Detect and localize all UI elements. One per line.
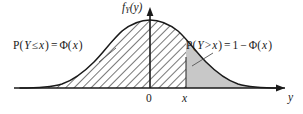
right-label-minus: − [239, 39, 248, 51]
left-label-phi-arg: x [73, 39, 78, 51]
right-label-phi-close: ) [267, 39, 273, 51]
left-label-variable: Y [24, 39, 30, 51]
right-region-label: P(Y>x)=1−Φ(x) [185, 40, 273, 52]
right-tail-region [186, 18, 282, 88]
left-region-label: P(Y≤x)=Φ(x) [12, 40, 84, 52]
tick-label-threshold: x [182, 93, 187, 105]
right-label-variable: Y [197, 39, 203, 51]
tick-label-zero: 0 [146, 93, 152, 105]
normal-distribution-figure: fY(y) P(Y≤x)=Φ(x) P(Y>x)=1−Φ(x) 0 x y [0, 0, 303, 114]
left-label-prefix: P( [12, 39, 24, 51]
density-argument: (y) [130, 1, 143, 13]
density-function-label: fY(y) [122, 2, 142, 15]
right-label-phi: Φ( [248, 39, 262, 51]
right-label-equals: = [223, 39, 232, 51]
left-label-phi: Φ( [58, 39, 72, 51]
right-label-prefix: P( [185, 39, 197, 51]
left-label-relation: ≤ [31, 39, 39, 51]
left-label-phi-close: ) [78, 39, 84, 51]
right-label-relation: > [204, 39, 213, 51]
horizontal-axis-label: y [288, 92, 293, 104]
